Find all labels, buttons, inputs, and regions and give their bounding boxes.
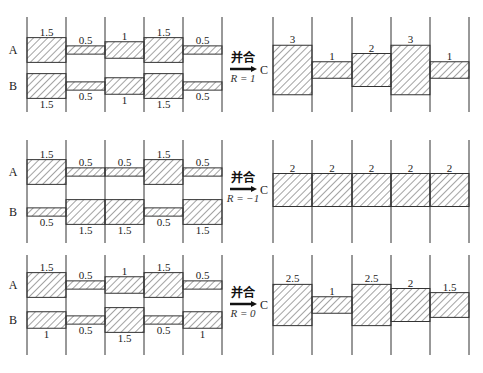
row-c-value-label: 2 bbox=[329, 162, 335, 174]
row-c-value-label: 2 bbox=[447, 162, 453, 174]
row-a-value-label: 0.5 bbox=[196, 269, 210, 281]
row-c-value-label: 1 bbox=[329, 285, 335, 297]
row-b-bar bbox=[183, 200, 222, 225]
row-b-bar bbox=[183, 82, 222, 90]
row-c-value-label: 1 bbox=[329, 50, 335, 62]
row-c-value-label: 2 bbox=[369, 42, 375, 54]
row-a-bar bbox=[144, 160, 183, 185]
row-c-value-label: 3 bbox=[408, 33, 414, 45]
row-b-value-label: 0.5 bbox=[196, 90, 210, 102]
row-a-bar bbox=[183, 46, 222, 54]
row-a-bar bbox=[66, 168, 105, 176]
row-b-bar bbox=[183, 312, 222, 329]
row-b-bar bbox=[66, 200, 105, 225]
row-b-value-label: 0.5 bbox=[79, 324, 93, 336]
row-c-bar bbox=[430, 174, 469, 207]
row-a-label: A bbox=[9, 165, 18, 179]
row-b-value-label: 0.5 bbox=[79, 90, 93, 102]
row-c-bar bbox=[312, 297, 352, 314]
row-b-value-label: 0.5 bbox=[40, 216, 54, 228]
row-a-value-label: 1.5 bbox=[157, 26, 171, 38]
row-a-bar bbox=[105, 277, 144, 294]
row-c-bar bbox=[352, 174, 391, 207]
row-c-value-label: 2.5 bbox=[286, 272, 300, 284]
row-a-value-label: 1 bbox=[122, 30, 128, 42]
row-c-bar bbox=[430, 62, 469, 79]
row-b-value-label: 1.5 bbox=[157, 98, 171, 110]
row-c-bar bbox=[273, 174, 312, 207]
row-c-bar bbox=[273, 45, 312, 95]
variance-merge-diagram: 1.50.511.50.51.50.511.50.531231ABC并合R = … bbox=[0, 0, 483, 373]
row-b-bar bbox=[144, 208, 183, 216]
row-b-label: B bbox=[9, 313, 17, 327]
row-b-bar bbox=[144, 316, 183, 324]
row-a-value-label: 0.5 bbox=[196, 156, 210, 168]
row-a-bar bbox=[144, 273, 183, 298]
row-b-bar bbox=[105, 78, 144, 95]
row-a-value-label: 1.5 bbox=[40, 148, 54, 160]
row-b-bar bbox=[66, 82, 105, 90]
row-c-value-label: 2 bbox=[408, 277, 414, 289]
row-c-label: C bbox=[260, 298, 268, 312]
row-b-bar bbox=[105, 308, 144, 333]
row-a-bar bbox=[105, 168, 144, 176]
row-a-bar bbox=[27, 38, 66, 63]
row-c-label: C bbox=[260, 183, 268, 197]
row-c-bar bbox=[391, 45, 430, 95]
row-a-value-label: 0.5 bbox=[79, 269, 93, 281]
row-b-label: B bbox=[9, 79, 17, 93]
row-b-value-label: 1.5 bbox=[79, 224, 93, 236]
row-c-bar bbox=[312, 174, 352, 207]
row-a-label: A bbox=[9, 278, 18, 292]
row-c-value-label: 2 bbox=[369, 162, 375, 174]
row-a-bar bbox=[105, 42, 144, 59]
merge-operation-label: 并合 bbox=[231, 170, 256, 185]
row-c-bar bbox=[352, 284, 391, 325]
row-b-bar bbox=[27, 74, 66, 99]
row-c-value-label: 2.5 bbox=[365, 272, 379, 284]
row-c-value-label: 1 bbox=[447, 50, 453, 62]
row-b-value-label: 1 bbox=[44, 328, 50, 340]
row-b-bar bbox=[27, 208, 66, 216]
row-a-bar bbox=[66, 281, 105, 289]
row-b-value-label: 1.5 bbox=[118, 332, 132, 344]
row-c-label: C bbox=[260, 63, 268, 77]
correlation-label: R = −1 bbox=[226, 192, 260, 204]
correlation-label: R = 0 bbox=[229, 307, 256, 319]
row-a-value-label: 1.5 bbox=[40, 26, 54, 38]
row-b-value-label: 0.5 bbox=[157, 324, 171, 336]
row-b-bar bbox=[27, 312, 66, 329]
row-a-value-label: 1.5 bbox=[157, 148, 171, 160]
merge-operation-label: 并合 bbox=[231, 285, 256, 300]
row-b-value-label: 0.5 bbox=[157, 216, 171, 228]
row-a-label: A bbox=[9, 43, 18, 57]
row-a-value-label: 0.5 bbox=[79, 156, 93, 168]
row-c-bar bbox=[312, 62, 352, 79]
row-b-value-label: 1.5 bbox=[118, 224, 132, 236]
row-a-bar bbox=[27, 160, 66, 185]
row-c-bar bbox=[391, 289, 430, 322]
row-b-bar bbox=[105, 200, 144, 225]
merge-operation-label: 并合 bbox=[231, 50, 256, 65]
row-c-value-label: 1.5 bbox=[443, 281, 457, 293]
row-b-value-label: 1 bbox=[200, 328, 206, 340]
row-a-value-label: 0.5 bbox=[196, 34, 210, 46]
row-a-value-label: 0.5 bbox=[118, 156, 132, 168]
row-a-bar bbox=[66, 46, 105, 54]
row-b-value-label: 1.5 bbox=[40, 98, 54, 110]
row-c-bar bbox=[430, 293, 469, 318]
row-a-bar bbox=[144, 38, 183, 63]
row-b-label: B bbox=[9, 205, 17, 219]
row-b-bar bbox=[66, 316, 105, 324]
row-b-value-label: 1.5 bbox=[196, 224, 210, 236]
row-a-bar bbox=[27, 273, 66, 298]
row-a-value-label: 0.5 bbox=[79, 34, 93, 46]
row-c-bar bbox=[391, 174, 430, 207]
row-c-bar bbox=[273, 284, 312, 325]
row-a-value-label: 1.5 bbox=[157, 261, 171, 273]
row-c-value-label: 3 bbox=[290, 33, 296, 45]
correlation-label: R = 1 bbox=[229, 72, 255, 84]
row-b-bar bbox=[144, 74, 183, 99]
row-a-value-label: 1 bbox=[122, 265, 128, 277]
row-a-bar bbox=[183, 281, 222, 289]
